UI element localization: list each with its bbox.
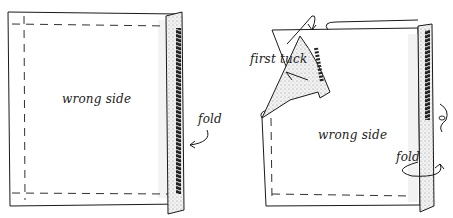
right-fabric-panel [261,16,447,212]
first-tuck-label: first tuck [250,52,307,66]
left-fold-label: fold [198,112,222,126]
right-fold-label: fold [396,150,420,164]
right-wrong-side-label: wrong side [318,128,387,142]
sewing-diagram: wrong side fold first tuck wrong side fo… [0,0,453,218]
left-fabric-panel [8,12,208,214]
left-wrong-side-label: wrong side [62,92,131,106]
diagram-drawing [0,0,453,218]
